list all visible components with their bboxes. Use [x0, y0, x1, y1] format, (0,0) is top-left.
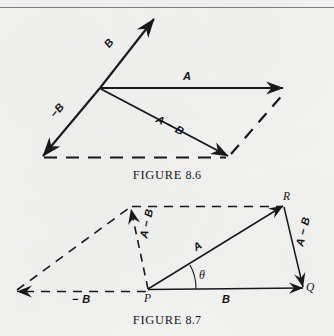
fig87-vector-b [148, 288, 303, 290]
fig87-vector-a [148, 206, 283, 289]
fig86-vector-neg-b [43, 88, 100, 156]
figure-8-7-caption-number: 8.7 [186, 313, 202, 327]
fig87-vector-b-label: B [222, 293, 230, 305]
figure-8-6-artwork [43, 19, 285, 158]
fig86-dashed-right [231, 92, 285, 154]
fig87-angle-arc [190, 265, 196, 289]
figure-8-7-caption: FIGURE 8.7 [0, 313, 334, 328]
figure-8-7-caption-word: FIGURE [133, 313, 182, 327]
fig87-point-r-label: R [283, 190, 290, 202]
fig86-vector-b [100, 19, 154, 88]
figure-8-6-caption: FIGURE 8.6 [0, 168, 334, 183]
fig86-vector-a-label: A [183, 70, 191, 82]
figure-page: B −B A A − B FIGURE 8.6 P Q R θ A B − B … [0, 0, 334, 336]
figure-8-6-caption-number: 8.6 [186, 168, 202, 182]
figure-8-6-caption-word: FIGURE [133, 168, 182, 182]
fig87-angle-theta-label: θ [199, 268, 205, 283]
fig87-point-q-label: Q [306, 281, 314, 293]
fig87-point-p-label: P [144, 292, 151, 304]
figure-8-7-artwork [17, 206, 303, 292]
fig87-vector-neg-b-label: − B [72, 293, 91, 305]
fig87-dashed-left-slant [17, 208, 129, 290]
